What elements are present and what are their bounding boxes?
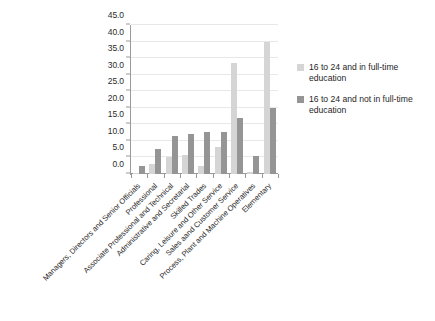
- legend-swatch-icon: [297, 64, 304, 71]
- bar: [253, 156, 259, 174]
- bar: [188, 134, 194, 174]
- bar-group: [164, 25, 180, 174]
- bar-group: [262, 25, 278, 174]
- legend-label: 16 to 24 and in full-time education: [309, 62, 427, 84]
- y-tick-mark: [126, 90, 130, 91]
- bar: [221, 132, 227, 174]
- bar: [270, 108, 276, 174]
- y-tick-label: 45.0: [108, 10, 124, 20]
- bar: [237, 118, 243, 174]
- y-tick-mark: [126, 106, 130, 107]
- y-tick-label: 30.0: [108, 60, 124, 70]
- bar: [155, 149, 161, 174]
- legend-label: 16 to 24 and not in full-time education: [309, 94, 427, 116]
- bar-series-container: [131, 25, 278, 174]
- bar-chart: 0.05.010.015.020.025.030.035.040.045.0 M…: [0, 0, 435, 321]
- y-tick-mark: [126, 40, 130, 41]
- bar-group: [180, 25, 196, 174]
- y-tick-label: 40.0: [108, 27, 124, 37]
- bar-group: [229, 25, 245, 174]
- y-axis-ticks: 0.05.010.015.020.025.030.035.040.045.0: [100, 25, 130, 174]
- bar-group: [147, 25, 163, 174]
- y-tick-label: 20.0: [108, 93, 124, 103]
- y-tick-label: 35.0: [108, 43, 124, 53]
- y-tick-mark: [126, 139, 130, 140]
- chart-legend: 16 to 24 and in full-time education16 to…: [297, 62, 435, 126]
- x-axis-labels: Managers, Directors and Senior Officials…: [0, 178, 300, 308]
- bar-group: [131, 25, 147, 174]
- bar-group: [213, 25, 229, 174]
- y-tick-mark: [126, 156, 130, 157]
- y-tick-mark: [126, 173, 130, 174]
- bar-group: [196, 25, 212, 174]
- y-tick-mark: [126, 24, 130, 25]
- legend-item[interactable]: 16 to 24 and not in full-time education: [297, 94, 435, 116]
- y-tick-mark: [126, 57, 130, 58]
- legend-item[interactable]: 16 to 24 and in full-time education: [297, 62, 435, 84]
- y-tick-mark: [126, 73, 130, 74]
- y-tick-label: 25.0: [108, 76, 124, 86]
- bar: [139, 166, 145, 174]
- bar: [204, 132, 210, 174]
- y-tick-label: 5.0: [112, 142, 124, 152]
- y-tick-label: 0.0: [112, 159, 124, 169]
- bar: [172, 136, 178, 174]
- y-tick-label: 10.0: [108, 126, 124, 136]
- legend-swatch-icon: [297, 96, 304, 103]
- bar-group: [245, 25, 261, 174]
- y-tick-mark: [126, 123, 130, 124]
- y-tick-label: 15.0: [108, 109, 124, 119]
